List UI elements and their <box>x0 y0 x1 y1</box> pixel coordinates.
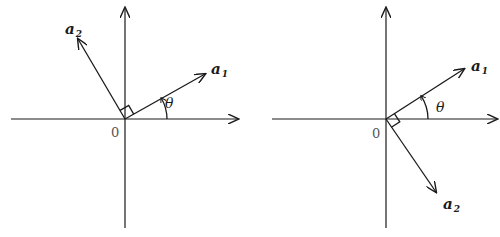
a2-label: a2 <box>65 20 82 39</box>
vector-a2 <box>386 119 436 192</box>
theta-label: θ <box>436 99 445 115</box>
right-angle-marker <box>391 114 399 128</box>
right-angle-marker <box>120 106 134 115</box>
a2-label: a2 <box>443 195 460 214</box>
right-diagram: θ 0 a1 a2 <box>272 8 497 228</box>
vector-a1 <box>386 69 464 119</box>
theta-arc <box>421 96 428 119</box>
theta-label: θ <box>165 95 174 111</box>
a1-label: a1 <box>471 57 488 76</box>
a1-label: a1 <box>211 60 228 79</box>
origin-label: 0 <box>372 126 380 141</box>
origin-label: 0 <box>111 125 119 140</box>
figure: θ 0 a1 a2 θ 0 a1 a2 <box>0 0 500 237</box>
vector-a2 <box>78 39 125 119</box>
left-diagram: θ 0 a1 a2 <box>11 8 238 228</box>
